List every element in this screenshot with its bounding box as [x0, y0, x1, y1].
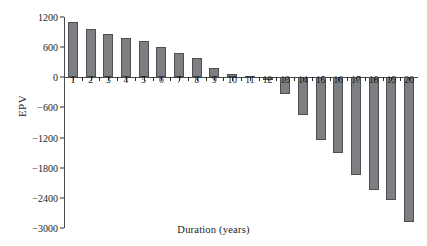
- bar: [103, 34, 113, 77]
- x-axis-tick-label: 16: [329, 75, 347, 85]
- x-axis-tick-label: 14: [294, 75, 312, 85]
- y-axis-tick-label: 1200: [18, 12, 58, 23]
- x-axis-tick-label: 15: [312, 75, 330, 85]
- bar: [121, 38, 131, 78]
- x-axis-tick-label: 7: [170, 75, 188, 85]
- y-axis-tick-label: −2400: [18, 192, 58, 203]
- bar: [351, 77, 361, 175]
- x-axis-tick-label: 5: [135, 75, 153, 85]
- x-axis-tick-label: 8: [188, 75, 206, 85]
- x-axis-tick-label: 17: [347, 75, 365, 85]
- y-axis-tick-label: −1800: [18, 162, 58, 173]
- bar: [68, 22, 78, 77]
- y-axis-tick-label: 0: [18, 72, 58, 83]
- y-axis-tick-label: 600: [18, 42, 58, 53]
- x-axis-tick-label: 10: [223, 75, 241, 85]
- bar: [333, 77, 343, 152]
- bar: [386, 77, 396, 200]
- x-axis-tick-label: 18: [365, 75, 383, 85]
- y-axis-line: [64, 17, 65, 228]
- x-axis-label: Duration (years): [0, 224, 427, 235]
- y-axis-tick-label: −600: [18, 102, 58, 113]
- x-axis-tick-label: 9: [205, 75, 223, 85]
- bar: [156, 47, 166, 77]
- x-axis-tick-label: 6: [152, 75, 170, 85]
- x-axis-tick-label: 1: [64, 75, 82, 85]
- bar: [369, 77, 379, 190]
- x-axis-tick-label: 4: [117, 75, 135, 85]
- bar: [404, 77, 414, 222]
- x-axis-tick-label: 11: [241, 75, 259, 85]
- bar: [174, 53, 184, 77]
- bar: [86, 29, 96, 77]
- bar: [316, 77, 326, 140]
- x-axis-tick-label: 12: [259, 75, 277, 85]
- x-axis-tick-label: 19: [382, 75, 400, 85]
- y-axis-tick-label: −1200: [18, 132, 58, 143]
- x-axis-tick-label: 3: [99, 75, 117, 85]
- x-axis-tick-label: 20: [400, 75, 418, 85]
- bar: [139, 41, 149, 77]
- x-axis-tick-label: 2: [82, 75, 100, 85]
- x-axis-tick-label: 13: [276, 75, 294, 85]
- chart-container: EPV 12006000−600−1200−1800−2400−3000 123…: [0, 0, 427, 246]
